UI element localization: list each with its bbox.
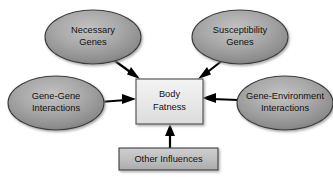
diagram-canvas: Necessary Genes Susceptibility Genes Gen… bbox=[0, 0, 333, 177]
diagram-svg: Necessary Genes Susceptibility Genes Gen… bbox=[0, 0, 333, 177]
gene-gene-label-line2: Interactions bbox=[32, 103, 80, 113]
arrow-gene-gene bbox=[100, 94, 136, 104]
body-fatness-label-line2: Fatness bbox=[153, 102, 186, 112]
gene-gene-label-line1: Gene-Gene bbox=[32, 91, 81, 101]
body-fatness-label-line1: Body bbox=[159, 89, 181, 99]
node-susceptibility-genes[interactable]: Susceptibility Genes bbox=[192, 10, 288, 64]
node-gene-gene-interactions[interactable]: Gene-Gene Interactions bbox=[8, 76, 104, 130]
gene-environment-label-line2: Interactions bbox=[261, 103, 309, 113]
gene-environment-label-line1: Gene-Environment bbox=[246, 91, 324, 101]
node-other-influences[interactable]: Other Influences bbox=[119, 148, 218, 170]
necessary-genes-label-line2: Genes bbox=[79, 37, 107, 47]
arrow-gene-environment bbox=[202, 93, 238, 103]
node-gene-environment-interactions[interactable]: Gene-Environment Interactions bbox=[237, 76, 333, 130]
node-body-fatness[interactable]: Body Fatness bbox=[136, 79, 203, 124]
node-necessary-genes[interactable]: Necessary Genes bbox=[45, 10, 141, 64]
susceptibility-genes-label-line2: Genes bbox=[226, 37, 254, 47]
necessary-genes-label-line1: Necessary bbox=[71, 25, 115, 35]
other-influences-label: Other Influences bbox=[134, 154, 203, 164]
arrow-other-influences bbox=[165, 124, 175, 148]
susceptibility-genes-label-line1: Susceptibility bbox=[213, 25, 268, 35]
